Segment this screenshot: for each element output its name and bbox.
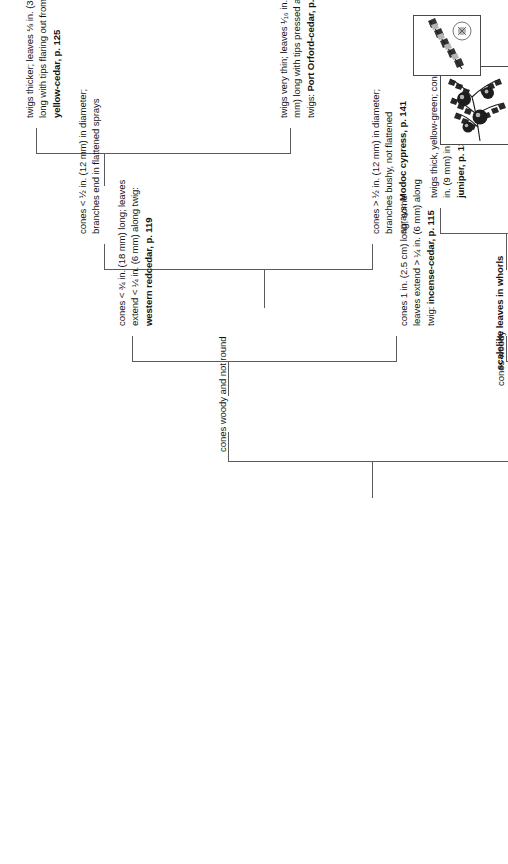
connector-woody-to-redcedar (132, 336, 133, 362)
connector-flatspray-to-yellowcedar (36, 128, 37, 154)
illustration-whorls-of-2-twig (413, 15, 481, 76)
node-incense-cedar-name: incense-cedar, p. 115 (425, 210, 436, 304)
connector-cypress-stem (264, 270, 265, 308)
node-yellow-cedar-text: twigs thicker; leaves ⅛ in. (3 mm) long … (24, 0, 48, 118)
node-western-redcedar-text: cones < ¾ in. (18 mm) long; leaves exten… (116, 180, 140, 326)
node-western-redcedar: cones < ¾ in. (18 mm) long; leaves exten… (102, 176, 155, 326)
whorls-of-2-twig-art (414, 16, 480, 75)
dichotomous-key-canvas: cones round and/or berrylike cones woody… (0, 0, 508, 508)
node-whorls-of-2: scalelike leaves in whorls (groups) of 2… (480, 224, 508, 370)
node-cones-woody-not-round: cones woody and not round (216, 262, 229, 452)
connector-whorls2-to-utah (440, 208, 441, 234)
connector-root-stem (372, 462, 373, 498)
connector-woody-to-incensecedar (396, 336, 397, 362)
node-port-orford-cedar-name: Port Orford-cedar, p. 131 (305, 0, 316, 92)
connector-root-split (228, 461, 508, 462)
node-modoc-cypress: cones > ½ in. (12 mm) in diameter; branc… (356, 82, 409, 234)
illustration-juniper-berry-foliage (440, 66, 508, 145)
connector-flatspray-to-portorford (290, 128, 291, 154)
connector-cypress-to-modoc (372, 244, 373, 270)
juniper-berry-foliage-art (441, 67, 508, 144)
node-flattened-sprays: cones < ½ in. (12 mm) in diameter; branc… (76, 84, 102, 234)
node-yellow-cedar-name: yellow-cedar, p. 125 (51, 30, 62, 118)
connector-flatspray-split (36, 153, 290, 154)
node-whorls-of-2-label: scalelike leaves in whorls (groups) of 2… (494, 232, 508, 370)
connector-woody-split (132, 361, 396, 362)
node-port-orford-cedar: twigs very thin; leaves ¹⁄₁₆ in. (1.5 mm… (264, 0, 317, 118)
node-yellow-cedar: twigs thicker; leaves ⅛ in. (3 mm) long … (10, 0, 63, 118)
node-modoc-cypress-name: Modoc cypress, p. 141 (397, 101, 408, 201)
node-western-redcedar-name: western redcedar, p. 119 (143, 217, 154, 326)
